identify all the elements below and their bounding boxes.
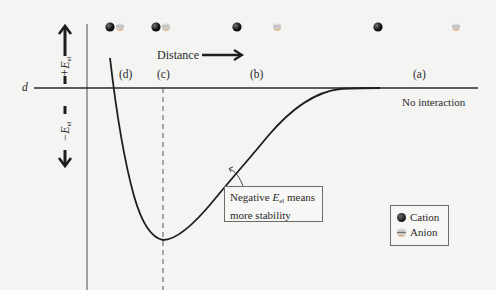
legend: Cation Anion [390,205,449,246]
diagram-lines [0,0,496,290]
region-label-d: (d) [119,69,132,81]
baseline-label: d [22,82,28,94]
stability-callout: Negative Eel means more stability [224,186,323,222]
legend-anion-label: Anion [410,225,438,240]
positive-energy-label: +Eel [58,52,73,82]
legend-item-cation: Cation [397,210,448,225]
region-label-a: (a) [413,69,426,81]
positive-energy-subscript: el [65,56,73,61]
legend-item-anion: Anion [397,225,448,240]
negative-energy-label: −Eel [58,117,73,147]
region-label-c: (c) [157,69,170,81]
anion-icon [397,228,406,237]
region-label-b: (b) [250,69,263,81]
callout-line-1: Negative Eel means [230,190,317,208]
positive-energy-symbol: +E [58,61,72,76]
callout-line-2: more stability [230,208,317,222]
cation-icon [397,213,406,222]
legend-cation-label: Cation [410,210,439,225]
distance-label: Distance [157,49,199,61]
no-interaction-label: No interaction [402,97,465,108]
negative-energy-symbol: −E [58,126,72,141]
electrostatic-energy-diagram: d +Eel −Eel Distance (d) (c) (b) (a) No … [0,0,496,290]
negative-energy-subscript: el [65,121,73,126]
